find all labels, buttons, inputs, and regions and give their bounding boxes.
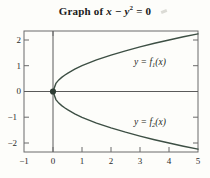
f2-label-subscript: 2 (152, 121, 155, 128)
x-tick-label-neg1: −1 (17, 156, 31, 166)
f1-label-subscript: 1 (152, 61, 155, 68)
x-axis-ticks (53, 147, 169, 152)
x-tick-label-5: 5 (191, 156, 205, 166)
f1-label-arg: (x) (155, 57, 166, 67)
x-tick-label-4: 4 (162, 156, 176, 166)
curve-f2 (53, 92, 198, 150)
y-tick-label-neg1: −1 (1, 112, 17, 122)
f2-label-eq: = (138, 117, 149, 127)
figure-container: Graph of x − y2 = 0 (0, 0, 210, 178)
curve-f1 (53, 34, 198, 92)
x-tick-label-1: 1 (75, 156, 89, 166)
x-tick-label-3: 3 (133, 156, 147, 166)
plot-canvas (0, 0, 210, 178)
curve-annotation-f2: y = f2(x) (134, 117, 166, 127)
y-tick-label-neg2: −2 (1, 138, 17, 148)
y-tick-label-0: 0 (5, 86, 21, 96)
vertex-point-marker (50, 88, 56, 94)
f1-label-eq: = (138, 57, 149, 67)
y-tick-label-1: 1 (5, 61, 21, 71)
x-tick-label-0: 0 (46, 156, 60, 166)
x-tick-label-2: 2 (104, 156, 118, 166)
y-tick-label-2: 2 (5, 35, 21, 45)
curve-annotation-f1: y = f1(x) (134, 57, 166, 67)
f2-label-arg: (x) (155, 117, 166, 127)
